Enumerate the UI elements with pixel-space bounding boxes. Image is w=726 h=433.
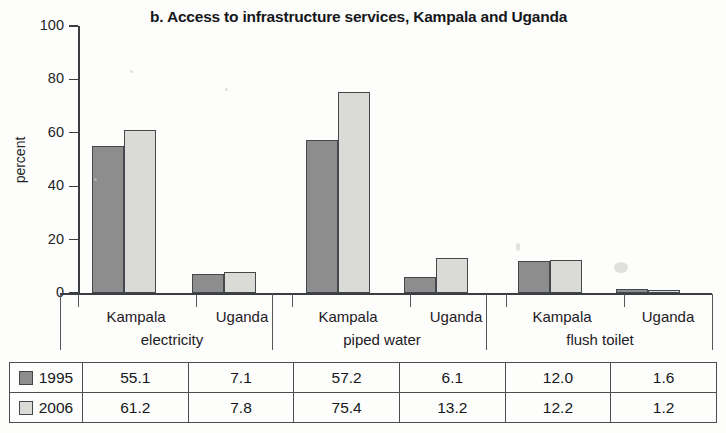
legend-swatch-icon [19, 371, 33, 385]
bar-2006 [338, 92, 370, 293]
table-cell-value: 55.1 [83, 363, 189, 393]
table-row: 199555.17.157.26.112.01.6 [10, 363, 717, 393]
table-cell-value: 13.2 [399, 393, 505, 423]
y-axis-tick [69, 25, 78, 26]
table-row: 200661.27.875.413.212.21.2 [10, 393, 717, 423]
x-axis-minor-tick [196, 294, 197, 307]
x-axis-city-label: Uganda [613, 308, 723, 325]
y-axis-tick-label: 60 [8, 125, 64, 140]
table-cell-value: 6.1 [399, 363, 505, 393]
y-axis-tick-label: 40 [8, 178, 64, 193]
y-axis-tick [69, 132, 78, 133]
table-cell-value: 1.2 [611, 393, 717, 423]
data-table: 199555.17.157.26.112.01.6200661.27.875.4… [9, 362, 717, 423]
table-cell-value: 7.1 [188, 363, 294, 393]
x-axis-minor-tick [410, 294, 411, 307]
scan-speck [130, 70, 133, 73]
x-axis-minor-tick [292, 294, 293, 307]
bar-1995 [192, 274, 224, 293]
y-axis-tick [69, 186, 78, 187]
scan-speck [614, 262, 628, 273]
scan-speck [225, 88, 228, 91]
y-axis-tick-label: 100 [8, 18, 64, 33]
x-axis-city-label: Uganda [187, 308, 297, 325]
bar-1995 [616, 289, 648, 293]
legend-year-label: 2006 [39, 399, 73, 416]
x-axis-minor-tick [624, 294, 625, 307]
y-axis-tick-label: 80 [8, 71, 64, 86]
y-axis-tick [69, 79, 78, 80]
table-cell-value: 12.0 [505, 363, 611, 393]
table-cell-value: 57.2 [294, 363, 400, 393]
legend-year-label: 1995 [39, 369, 73, 386]
table-cell-value: 12.2 [505, 393, 611, 423]
legend-cell: 1995 [10, 363, 83, 393]
x-axis-group-label: flush toilet [530, 331, 670, 348]
bars-layer [78, 26, 712, 293]
y-axis-tick-label: 20 [8, 232, 64, 247]
bar-1995 [306, 140, 338, 293]
bar-2006 [648, 290, 680, 293]
chart-figure: b. Access to infrastructure services, Ka… [0, 0, 726, 433]
x-axis-city-label: Kampala [293, 308, 403, 325]
bar-1995 [404, 277, 436, 293]
table-cell-value: 75.4 [294, 393, 400, 423]
bar-2006 [436, 258, 468, 293]
x-axis-city-label: Uganda [401, 308, 511, 325]
x-axis-line [60, 293, 712, 295]
legend-swatch-icon [19, 401, 33, 415]
scan-speck [516, 243, 520, 251]
x-axis-city-label: Kampala [507, 308, 617, 325]
scan-speck [94, 178, 97, 181]
x-axis-minor-tick [506, 294, 507, 307]
chart-title: b. Access to infrastructure services, Ka… [150, 8, 680, 26]
bar-2006 [224, 272, 256, 293]
table-cell-value: 7.8 [188, 393, 294, 423]
bar-2006 [550, 260, 582, 293]
y-axis-tick [69, 239, 78, 240]
x-axis-city-label: Kampala [81, 308, 191, 325]
bar-2006 [124, 130, 156, 293]
bar-1995 [92, 146, 124, 293]
table-cell-value: 1.6 [611, 363, 717, 393]
x-axis-group-separator [60, 294, 61, 350]
table-cell-value: 61.2 [83, 393, 189, 423]
y-axis-tick-label: 0 [8, 285, 64, 300]
bar-1995 [518, 261, 550, 293]
x-axis-minor-tick [78, 294, 79, 307]
x-axis-group-label: electricity [102, 331, 242, 348]
x-axis-group-label: piped water [312, 331, 452, 348]
legend-cell: 2006 [10, 393, 83, 423]
